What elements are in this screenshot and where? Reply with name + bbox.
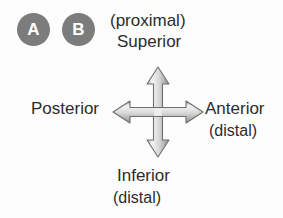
label-inferior: Inferior [117,166,170,186]
anatomical-direction-diagram: A B (proximal) Superior Posterior Anteri… [0,0,283,218]
four-way-arrow-icon [108,62,208,162]
badge-a-label: A [27,21,39,38]
arrow-center-junction [154,108,162,116]
badge-a: A [17,13,50,46]
badge-b: B [62,13,95,46]
label-superior-parenthetical: (proximal) [110,11,186,31]
label-inferior-parenthetical: (distal) [113,188,161,208]
badge-b-label: B [72,21,84,38]
label-anterior: Anterior [205,99,265,119]
label-anterior-parenthetical: (distal) [209,121,257,141]
label-posterior: Posterior [31,99,99,119]
label-superior: Superior [117,32,181,52]
